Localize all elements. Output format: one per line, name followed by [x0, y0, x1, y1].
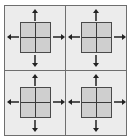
- arrow-left-icon: [68, 34, 80, 40]
- grid-square: [81, 87, 112, 118]
- grid-horizontal-line: [82, 102, 111, 103]
- panel-bottom-right: [66, 71, 126, 135]
- grid-horizontal-line: [21, 37, 50, 38]
- arrow-up-icon: [93, 74, 99, 86]
- arrow-up-icon: [32, 9, 38, 21]
- grid-horizontal-line: [21, 102, 50, 103]
- arrow-down-icon: [32, 120, 38, 132]
- arrow-left-icon: [7, 34, 19, 40]
- arrow-up-icon: [32, 74, 38, 86]
- arrow-left-icon: [68, 99, 80, 105]
- arrow-down-icon: [32, 55, 38, 67]
- panel-top-right: [66, 6, 126, 70]
- arrow-down-icon: [93, 55, 99, 67]
- arrow-up-icon: [93, 9, 99, 21]
- arrow-down-icon: [93, 120, 99, 132]
- arrow-right-icon: [53, 99, 65, 105]
- grid-horizontal-line: [82, 37, 111, 38]
- arrow-left-icon: [7, 99, 19, 105]
- panel-top-left: [5, 6, 65, 70]
- arrow-right-icon: [114, 34, 126, 40]
- grid-square: [81, 22, 112, 53]
- grid-square: [20, 87, 51, 118]
- panel-bottom-left: [5, 71, 65, 135]
- grid-square: [20, 22, 51, 53]
- arrow-right-icon: [114, 99, 126, 105]
- arrow-right-icon: [53, 34, 65, 40]
